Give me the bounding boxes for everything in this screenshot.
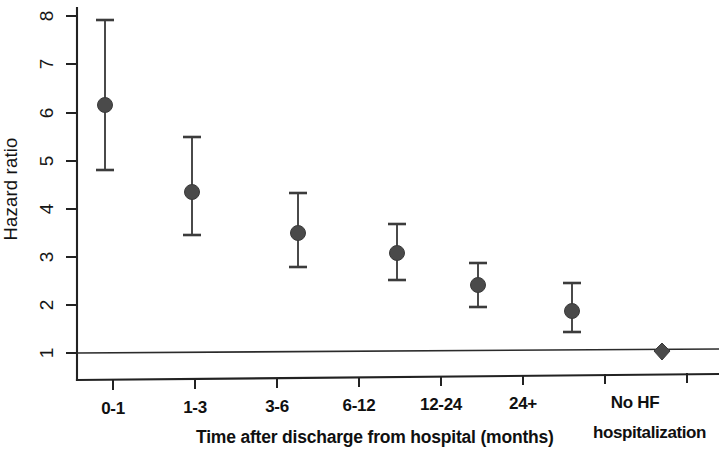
data-point-no-hf-hospitalization (654, 343, 670, 360)
data-point-6-12 (388, 224, 406, 280)
x-tick-label-no-hf: No HF (600, 393, 670, 413)
y-tick-label-4: 4 (36, 196, 58, 222)
chart-canvas (0, 0, 719, 458)
data-point-1-3 (183, 137, 201, 235)
y-tick-label-3: 3 (36, 244, 58, 270)
x-tick-label-3-6: 3-6 (247, 397, 307, 417)
y-tick-label-2: 2 (36, 292, 58, 318)
y-axis-ticks (66, 16, 77, 353)
data-point-12-24 (469, 263, 487, 307)
x-tick-label-1-3: 1-3 (165, 398, 225, 418)
x-tick-label-24-plus: 24+ (493, 394, 553, 414)
y-axis-title: Hazard ratio (0, 137, 22, 240)
y-tick-label-6: 6 (36, 100, 58, 126)
marker-circle (185, 185, 200, 200)
y-tick-label-5: 5 (36, 148, 58, 174)
y-tick-label-8: 8 (36, 3, 58, 29)
marker-circle (291, 226, 306, 241)
x-tick-label-hospitalization: hospitalization (593, 423, 706, 443)
marker-circle (98, 98, 113, 113)
data-point-0-1 (96, 20, 114, 170)
x-tick-label-0-1: 0-1 (83, 399, 143, 419)
marker-circle (390, 246, 405, 261)
y-tick-label-7: 7 (36, 51, 58, 77)
marker-circle (565, 304, 580, 319)
y-tick-label-1: 1 (36, 340, 58, 366)
x-tick-label-12-24: 12-24 (411, 395, 471, 415)
hazard-ratio-chart: 8 7 6 5 4 3 2 1 Hazard ratio 0-1 1-3 3-6… (0, 0, 719, 458)
data-point-3-6 (289, 193, 307, 267)
x-axis-line (77, 374, 719, 380)
x-axis-title: Time after discharge from hospital (mont… (196, 427, 554, 448)
data-point-24-plus (563, 283, 581, 332)
marker-diamond (654, 343, 670, 360)
data-series-hazard-ratio (96, 20, 670, 360)
marker-circle (471, 278, 486, 293)
reference-line-hr-1 (77, 349, 719, 353)
x-tick-label-6-12: 6-12 (329, 396, 389, 416)
